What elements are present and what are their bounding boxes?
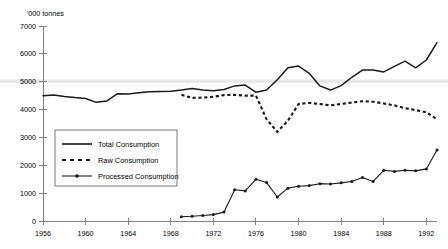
legend-label: Raw Consumption <box>98 156 158 165</box>
data-point-marker <box>201 214 204 217</box>
data-point-marker <box>276 196 279 199</box>
data-point-marker <box>425 167 428 170</box>
series-line-processed-consumption <box>181 150 437 217</box>
data-point-marker <box>340 181 343 184</box>
y-tick-label: 3000 <box>20 133 36 142</box>
data-point-marker <box>393 170 396 173</box>
series-line-total-consumption <box>43 43 437 103</box>
data-point-marker <box>233 188 236 191</box>
x-tick-label: 1968 <box>163 229 179 238</box>
y-tick-label: 1000 <box>20 189 36 198</box>
data-point-marker <box>254 178 257 181</box>
legend-swatch-marker <box>75 174 79 178</box>
x-tick-label: 1988 <box>376 229 392 238</box>
data-point-marker <box>191 215 194 218</box>
data-point-marker <box>265 181 268 184</box>
highlight-band <box>0 79 448 83</box>
y-axis-title: '000 tonnes <box>27 9 64 18</box>
series-line-raw-consumption <box>181 95 437 132</box>
data-point-marker <box>414 169 417 172</box>
data-point-marker <box>308 184 311 187</box>
legend-label: Total Consumption <box>98 140 159 149</box>
plot-background <box>0 79 448 83</box>
chart-legend: Total ConsumptionRaw ConsumptionProcesse… <box>55 130 179 186</box>
x-tick-label: 1980 <box>291 229 307 238</box>
data-point-marker <box>372 180 375 183</box>
data-point-marker <box>329 182 332 185</box>
line-chart: 01000200030004000500060007000 1956196019… <box>0 0 448 249</box>
x-tick-label: 1964 <box>120 229 136 238</box>
chart-container: 01000200030004000500060007000 1956196019… <box>0 0 448 249</box>
data-point-marker <box>318 182 321 185</box>
data-point-marker <box>212 213 215 216</box>
data-point-marker <box>297 185 300 188</box>
data-point-marker <box>223 211 226 214</box>
y-tick-label: 6000 <box>20 49 36 58</box>
y-tick-label: 4000 <box>20 105 36 114</box>
x-tick-label: 1976 <box>248 229 264 238</box>
data-point-marker <box>436 148 439 151</box>
y-tick-label: 0 <box>32 217 36 226</box>
x-tick-label: 1972 <box>205 229 221 238</box>
x-axis: 1956196019641968197219761980198419881992 <box>35 218 437 239</box>
data-point-marker <box>286 187 289 190</box>
x-tick-label: 1984 <box>333 229 349 238</box>
data-point-marker <box>244 189 247 192</box>
data-point-marker <box>404 169 407 172</box>
y-tick-label: 2000 <box>20 161 36 170</box>
x-tick-label: 1992 <box>418 229 434 238</box>
legend-label: Processed Consumption <box>98 172 179 181</box>
y-tick-label: 7000 <box>20 22 36 31</box>
y-axis: 01000200030004000500060007000 <box>20 22 47 226</box>
y-tick-label: 5000 <box>20 77 36 86</box>
x-tick-label: 1956 <box>35 229 51 238</box>
data-point-marker <box>350 180 353 183</box>
data-point-marker <box>180 215 183 218</box>
data-point-marker <box>382 169 385 172</box>
data-point-marker <box>361 176 364 179</box>
x-tick-label: 1960 <box>78 229 94 238</box>
